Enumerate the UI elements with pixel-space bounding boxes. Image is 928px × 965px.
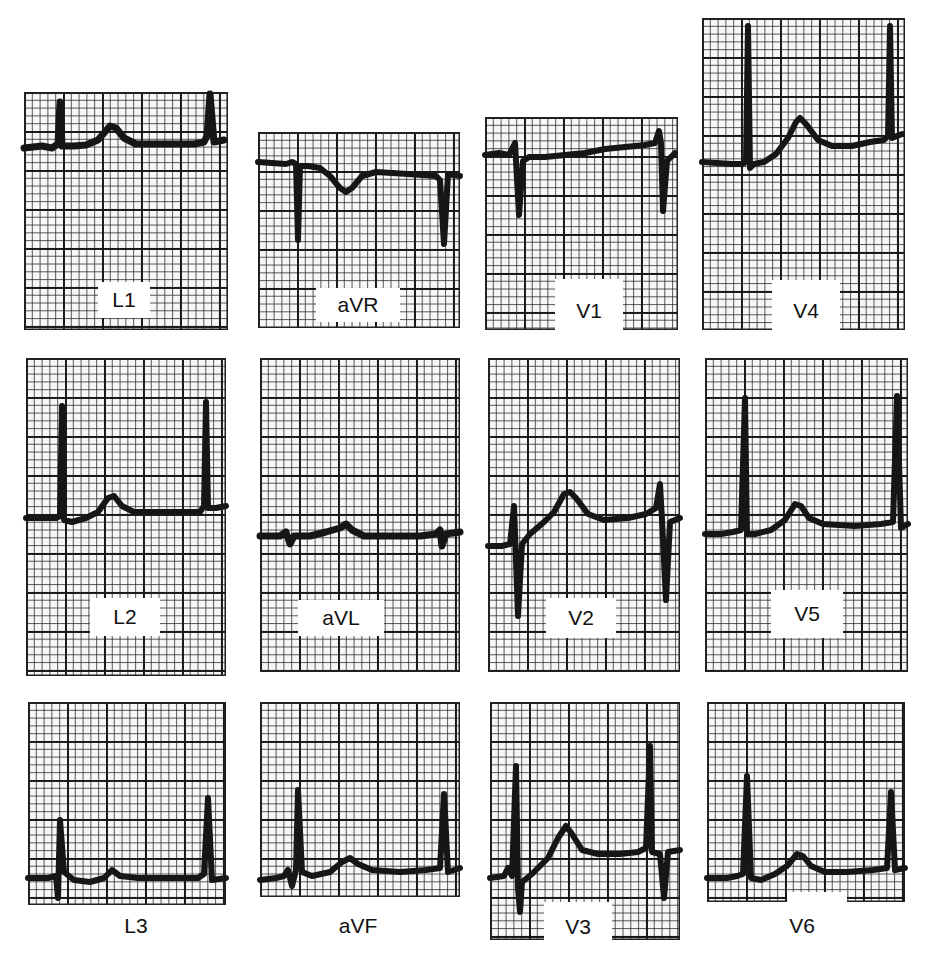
ecg-trace-avf bbox=[260, 702, 460, 897]
label-notch-v6 bbox=[787, 892, 847, 902]
lead-label-l1: L1 bbox=[98, 282, 150, 318]
lead-label-v6: V6 bbox=[762, 914, 842, 938]
ecg-panel-v5: V5 bbox=[705, 358, 908, 672]
lead-label-v4: V4 bbox=[776, 294, 836, 328]
lead-label-v1: V1 bbox=[559, 295, 619, 327]
lead-label-v3: V3 bbox=[546, 914, 610, 940]
lead-label-v2: V2 bbox=[546, 598, 616, 638]
ecg-panel-v6 bbox=[707, 702, 905, 902]
ecg-trace-l3 bbox=[28, 702, 226, 905]
lead-label-avf: aVF bbox=[318, 914, 398, 938]
lead-label-avl: aVL bbox=[298, 600, 384, 636]
ecg-panel-v1: V1 bbox=[485, 117, 678, 330]
ecg-panel-l1: L1 bbox=[24, 92, 228, 330]
lead-label-l2: L2 bbox=[90, 598, 160, 636]
ecg-panel-avf bbox=[260, 702, 460, 897]
ecg-trace-v6 bbox=[707, 702, 905, 902]
ecg-panel-avl: aVL bbox=[260, 358, 460, 672]
lead-label-avr: aVR bbox=[316, 288, 400, 322]
ecg-panel-l3 bbox=[28, 702, 226, 905]
lead-label-l3: L3 bbox=[96, 914, 176, 938]
lead-label-v5: V5 bbox=[771, 590, 843, 638]
ecg-panel-l2: L2 bbox=[26, 358, 226, 676]
ecg-panel-avr: aVR bbox=[258, 132, 460, 328]
ecg-panel-v4: V4 bbox=[702, 18, 905, 330]
ecg-panel-v3: V3 bbox=[490, 702, 680, 940]
ecg-panel-v2: V2 bbox=[488, 358, 680, 672]
